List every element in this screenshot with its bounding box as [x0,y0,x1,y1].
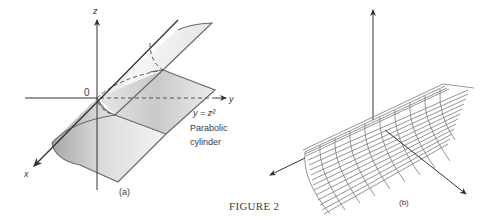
equation-label: y = z² [193,108,215,118]
z-axis-label: z [93,6,98,16]
origin-label: 0 [84,88,90,98]
panel-b-label: (b) [399,198,409,208]
b-left-axis [270,158,305,175]
panel-a-label: (a) [119,187,130,197]
surface-name-line2: cylinder [190,137,221,147]
x-axis-label: x [24,169,29,179]
mesh-surface [303,84,474,214]
panel-a [25,20,226,190]
figure-canvas [0,0,496,224]
figure-2: z 0 y x y = z² Parabolic cylinder (a) (b… [0,0,496,224]
figure-caption: FIGURE 2 [229,200,279,212]
surface-name-line1: Parabolic [190,123,228,133]
panel-b [270,10,474,214]
y-axis-label: y [229,94,234,104]
